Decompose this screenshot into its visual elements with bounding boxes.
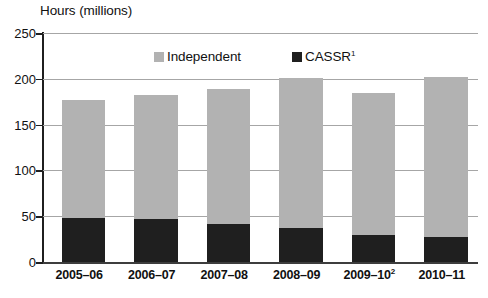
y-axis-tick-label: 150 — [2, 117, 36, 132]
x-axis-category-label: 2008–09 — [261, 268, 334, 282]
y-axis-tick-label: 50 — [2, 209, 36, 224]
y-axis-tick-label: 250 — [2, 26, 36, 41]
bar-stack[interactable] — [62, 100, 106, 262]
y-axis-tick — [36, 262, 43, 264]
x-axis-category-label: 2006–07 — [116, 268, 189, 282]
bar-segment-independent[interactable] — [352, 93, 396, 236]
y-axis-tick — [36, 125, 43, 127]
bar-segment-independent[interactable] — [279, 78, 323, 228]
axis-baseline — [43, 262, 478, 264]
bar-segment-independent[interactable] — [424, 77, 468, 237]
bar-segment-cassr[interactable] — [352, 235, 396, 262]
y-axis-tick — [36, 170, 43, 172]
stacked-bar-chart: Hours (millions) 050100150200250 2005–06… — [0, 0, 488, 298]
x-axis-category-label: 2009–102 — [333, 268, 406, 282]
gridline — [43, 33, 478, 34]
bar-stack[interactable] — [134, 95, 178, 262]
bar-segment-independent[interactable] — [62, 100, 106, 218]
gridline — [43, 216, 478, 217]
bar-segment-cassr[interactable] — [279, 228, 323, 262]
bar-stack[interactable] — [424, 77, 468, 262]
bar-segment-independent[interactable] — [134, 95, 178, 219]
y-axis-tick-label: 100 — [2, 163, 36, 178]
bar-stack[interactable] — [279, 78, 323, 262]
bar-segment-cassr[interactable] — [134, 219, 178, 262]
x-axis-category-label: 2010–11 — [406, 268, 479, 282]
chart-axis-title: Hours (millions) — [40, 3, 132, 18]
x-axis-category-label: 2005–06 — [43, 268, 116, 282]
bar-segment-cassr[interactable] — [62, 218, 106, 262]
y-axis-tick — [36, 79, 43, 81]
plot-area — [43, 33, 478, 262]
gridline — [43, 79, 478, 80]
legend-footnote-marker: 1 — [351, 49, 355, 58]
x-axis-category-label: 2007–08 — [188, 268, 261, 282]
legend-swatch-icon — [292, 52, 302, 62]
legend-entry[interactable]: CASSR1 — [292, 49, 355, 64]
y-axis-tick-label: 200 — [2, 71, 36, 86]
bar-segment-independent[interactable] — [207, 89, 251, 224]
y-axis-tick — [36, 216, 43, 218]
legend-swatch-icon — [154, 52, 164, 62]
x-axis-label-footnote-marker: 2 — [391, 267, 395, 276]
gridline — [43, 170, 478, 171]
legend-label: CASSR1 — [305, 49, 355, 64]
bar-segment-cassr[interactable] — [424, 237, 468, 262]
chart-legend: IndependentCASSR1 — [154, 49, 355, 64]
gridline — [43, 125, 478, 126]
y-axis-tick-label: 0 — [2, 255, 36, 270]
bar-stack[interactable] — [207, 89, 251, 262]
y-axis-labels: 050100150200250 — [0, 0, 36, 298]
bar-stack[interactable] — [352, 93, 396, 262]
bar-segment-cassr[interactable] — [207, 224, 251, 262]
legend-label: Independent — [167, 49, 241, 64]
legend-entry[interactable]: Independent — [154, 49, 241, 64]
y-axis-tick — [36, 33, 43, 35]
